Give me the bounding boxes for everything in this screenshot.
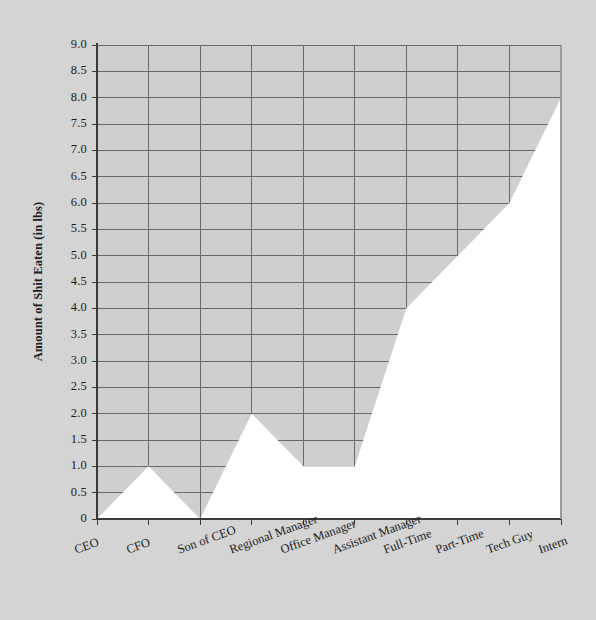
y-tick-label: 4.5 xyxy=(43,274,87,289)
y-tick-label: 5.0 xyxy=(43,248,87,263)
y-tick-label: 2.0 xyxy=(43,406,87,421)
y-tick-label: 2.5 xyxy=(43,379,87,394)
y-tick-label: 7.0 xyxy=(43,142,87,157)
y-tick-label: 0 xyxy=(43,511,87,526)
y-tick-label: 8.0 xyxy=(43,90,87,105)
y-tick-label: 6.0 xyxy=(43,195,87,210)
y-tick-label: 1.0 xyxy=(43,458,87,473)
y-tick-label: 9.0 xyxy=(43,37,87,52)
y-tick-label: 1.5 xyxy=(43,432,87,447)
y-tick-label: 0.5 xyxy=(43,485,87,500)
y-tick-label: 4.0 xyxy=(43,300,87,315)
y-tick-label: 3.0 xyxy=(43,353,87,368)
y-tick-label: 7.5 xyxy=(43,116,87,131)
y-tick-label: 5.5 xyxy=(43,221,87,236)
chart-figure: Amount of Shit Eaten (in lbs) 00.51.01.5… xyxy=(0,0,596,620)
y-tick-label: 6.5 xyxy=(43,169,87,184)
y-tick-label: 3.5 xyxy=(43,327,87,342)
y-tick-label: 8.5 xyxy=(43,63,87,78)
